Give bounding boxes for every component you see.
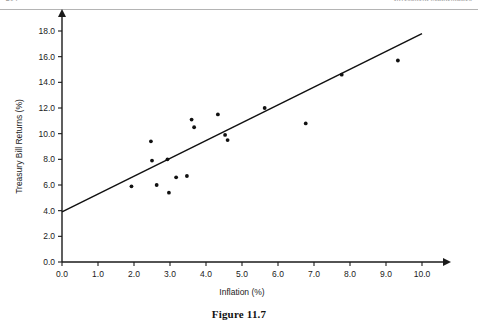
data-point	[340, 73, 344, 77]
data-point	[130, 184, 134, 188]
x-tick-label: 7.0	[308, 269, 320, 279]
tick-group: 0.02.04.06.08.010.012.014.016.018.00.01.…	[38, 26, 430, 279]
figure-caption: Figure 11.7	[0, 308, 478, 320]
data-point	[396, 59, 400, 63]
y-tick-label: 14.0	[38, 77, 55, 87]
x-tick-label: 3.0	[164, 269, 176, 279]
data-point	[155, 183, 159, 187]
x-tick-label: 6.0	[272, 269, 284, 279]
data-points-group	[130, 59, 400, 195]
data-point	[185, 174, 189, 178]
y-tick-label: 18.0	[38, 26, 55, 36]
trendline-group	[62, 34, 422, 212]
data-point	[223, 133, 227, 137]
data-point	[304, 122, 308, 126]
x-tick-label: 4.0	[200, 269, 212, 279]
y-tick-label: 6.0	[43, 180, 55, 190]
data-point	[174, 175, 178, 179]
y-tick-label: 12.0	[38, 103, 55, 113]
y-tick-label: 10.0	[38, 129, 55, 139]
y-tick-label: 8.0	[43, 154, 55, 164]
y-tick-label: 16.0	[38, 52, 55, 62]
data-point	[216, 113, 220, 117]
data-point	[190, 118, 194, 122]
y-tick-label: 2.0	[43, 231, 55, 241]
x-tick-label: 1.0	[92, 269, 104, 279]
chart-canvas: 0.02.04.06.08.010.012.014.016.018.00.01.…	[0, 0, 478, 300]
data-point	[167, 191, 171, 195]
data-point	[149, 139, 153, 143]
y-axis-title: Treasury Bill Returns (%)	[14, 99, 24, 194]
axes-group	[62, 16, 444, 262]
data-point	[226, 138, 230, 142]
x-tick-label: 0.0	[56, 269, 68, 279]
y-tick-label: 4.0	[43, 206, 55, 216]
x-axis-title: Inflation (%)	[219, 287, 265, 297]
data-point	[192, 125, 196, 129]
data-point	[150, 159, 154, 163]
y-tick-label: 0.0	[43, 257, 55, 267]
figure-page: 214 Investment Mathematics 0.02.04.06.08…	[0, 0, 478, 331]
data-point	[166, 157, 170, 161]
x-tick-label: 2.0	[128, 269, 140, 279]
x-tick-label: 5.0	[236, 269, 248, 279]
x-tick-label: 8.0	[344, 269, 356, 279]
x-tick-label: 9.0	[380, 269, 392, 279]
x-tick-label: 10.0	[414, 269, 431, 279]
scatter-chart: 0.02.04.06.08.010.012.014.016.018.00.01.…	[0, 0, 478, 331]
data-point	[263, 106, 267, 110]
